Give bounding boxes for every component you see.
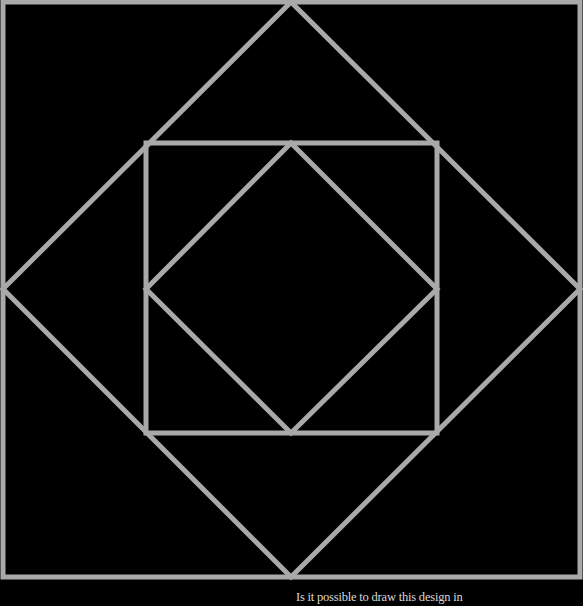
outer-diamond (3, 2, 580, 577)
inner-diamond (146, 143, 437, 433)
puzzle-question-caption: Is it possible to draw this design in (296, 590, 463, 604)
outer-square (3, 2, 580, 577)
puzzle-page: Is it possible to draw this design in (0, 0, 583, 606)
middle-square (146, 143, 437, 433)
nested-squares-diagram (0, 0, 583, 606)
